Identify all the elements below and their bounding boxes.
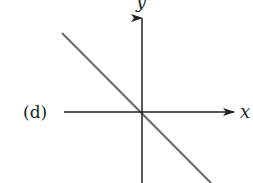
- x-axis-label: x: [240, 101, 250, 122]
- panel-label: (d): [23, 102, 47, 122]
- y-axis-label: y: [135, 0, 147, 12]
- diagonal-line: [62, 33, 211, 183]
- graph-diagram: y x (d): [0, 0, 253, 183]
